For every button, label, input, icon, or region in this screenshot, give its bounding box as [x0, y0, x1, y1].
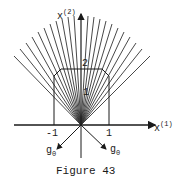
- figure-caption: Figure 43: [56, 166, 115, 177]
- fan-lines: [14, 16, 150, 125]
- x2-axis-label: x(2): [57, 12, 76, 22]
- tick-label-y-2: 2: [82, 59, 88, 69]
- tick-label-x-neg1: -1: [46, 129, 58, 139]
- g0-label: g0: [110, 145, 120, 155]
- tick-label-y-1: 1: [83, 88, 89, 98]
- x1-axis-label: x(1): [154, 124, 173, 134]
- g0-prime-label: g0': [46, 146, 60, 156]
- g0-prime-vector: [57, 125, 81, 149]
- figure-43-diagram: x(2) x(1) -1 1 2 1 g0' g0 Figure 43: [0, 0, 188, 190]
- diagram-canvas: [0, 0, 188, 190]
- tick-label-x-pos1: 1: [106, 129, 112, 139]
- g0-vector: [81, 125, 106, 149]
